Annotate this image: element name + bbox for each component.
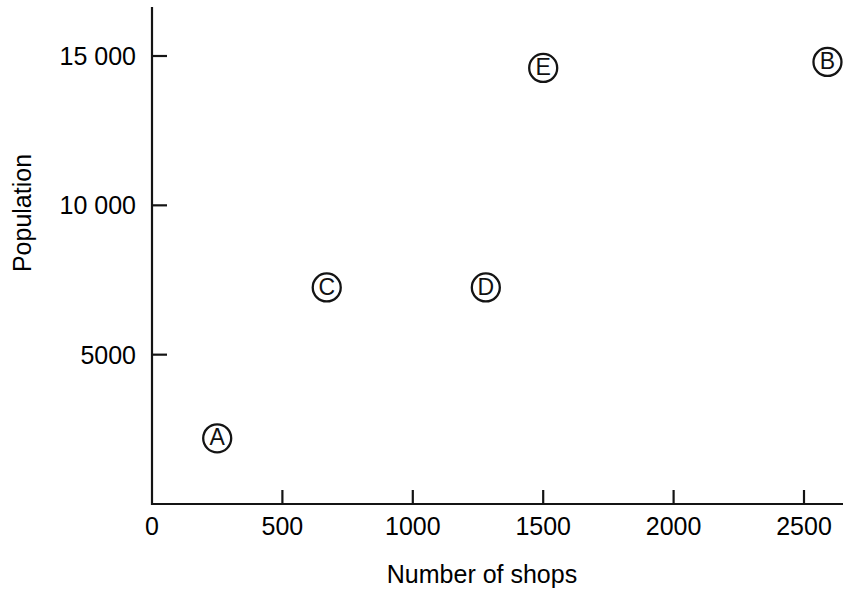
y-tick-label: 5000 [80,341,136,369]
x-tick-label: 500 [262,512,304,540]
scatter-plot-figure: 05001000150020002500 500010 00015 000 AB… [0,0,843,592]
x-axis-title: Number of shops [387,560,577,588]
x-tick-label: 0 [145,512,159,540]
data-point-b: B [813,48,841,76]
y-axis-ticks: 500010 00015 000 [60,42,167,369]
x-tick-label: 2500 [776,512,832,540]
y-tick-label: 15 000 [60,42,136,70]
chart-canvas: 05001000150020002500 500010 00015 000 AB… [0,0,843,592]
data-point-d: D [472,273,500,301]
marker-label: D [478,274,495,300]
marker-label: A [210,424,226,450]
y-axis-title: Population [8,154,36,272]
marker-label: C [318,274,335,300]
x-tick-label: 1000 [385,512,441,540]
y-tick-label: 10 000 [60,191,136,219]
x-tick-label: 1500 [515,512,571,540]
data-point-c: C [313,273,341,301]
data-point-e: E [529,54,557,82]
marker-label: E [536,54,551,80]
x-axis-ticks: 05001000150020002500 [145,490,832,540]
data-points: ABCDE [203,48,841,452]
axes [152,8,843,504]
marker-label: B [820,48,835,74]
data-point-a: A [203,424,231,452]
x-tick-label: 2000 [646,512,702,540]
